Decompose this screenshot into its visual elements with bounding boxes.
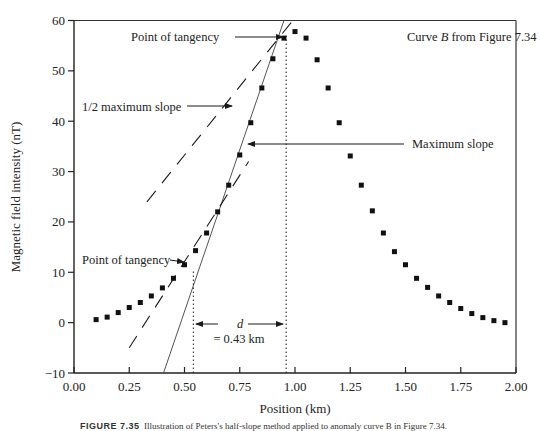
x-tick-label: 1.00 [284,379,307,394]
x-tick-label: 2.00 [505,379,528,394]
x-tick-label: 1.50 [394,379,417,394]
x-tick-label: 1.25 [339,379,362,394]
data-point [315,57,320,62]
data-point [458,306,463,311]
chart: 0.000.250.500.751.001.251.501.752.00 −10… [0,0,540,431]
data-point [160,285,165,290]
data-point [447,300,452,305]
data-point [105,315,110,320]
data-point [425,285,430,290]
figure-number: FIGURE 7.35 [80,421,140,431]
data-point [138,300,143,305]
data-point [359,183,364,188]
y-tick-label: 60 [52,13,65,28]
plot-frame [74,21,516,374]
data-point [381,231,386,236]
data-point [94,317,99,322]
tangency-bottom-label: Point of tangency [82,253,171,267]
data-point [502,320,507,325]
data-point [127,305,132,310]
data-point [392,249,397,254]
y-axis-label: Magnetic field intensity (nT) [8,122,23,273]
annotations: Curve B from Figure 7.34 Point of tangen… [82,30,537,346]
y-tick-label: 20 [52,214,65,229]
x-tick-label: 0.50 [173,379,196,394]
data-point [270,56,275,61]
data-point [226,183,231,188]
data-point [337,120,342,125]
x-tick-label: 0.75 [228,379,251,394]
d-value: = 0.43 km [213,332,264,346]
y-tick-label: 30 [52,164,65,179]
slope-lines [129,21,293,374]
half-slope-label: 1/2 maximum slope [82,100,182,114]
data-point [293,29,298,34]
data-point [215,209,220,214]
data-point [403,262,408,267]
data-point [414,276,419,281]
tangency-bottom-arrow [170,260,184,262]
data-point [237,152,242,157]
d-symbol: d [237,317,244,331]
y-tick-label: 50 [52,63,65,78]
x-tick-label: 0.00 [63,379,86,394]
data-point [281,36,286,41]
data-point [491,318,496,323]
data-point [149,293,154,298]
data-point [304,36,309,41]
data-point [259,85,264,90]
caption-text: Illustration of Peters's half-slope meth… [144,421,447,431]
x-axis-ticks: 0.000.250.500.751.001.251.501.752.00 [63,367,528,394]
data-point [370,208,375,213]
data-point [469,311,474,316]
x-tick-label: 1.75 [449,379,472,394]
y-tick-label: 40 [52,114,65,129]
data-point [348,153,353,158]
data-point [204,231,209,236]
y-tick-label: 10 [52,265,65,280]
max-slope-label: Maximum slope [412,137,494,151]
y-tick-label: 0 [59,315,66,330]
data-points [94,29,508,325]
x-axis-label: Position (km) [259,401,330,416]
data-point [182,262,187,267]
max-slope-line [164,21,284,374]
data-point [171,276,176,281]
data-point [480,315,485,320]
x-tick-label: 0.25 [118,379,141,394]
curve-title: Curve B from Figure 7.34 [407,30,537,44]
data-point [193,248,198,253]
data-point [326,85,331,90]
tangency-top-label: Point of tangency [131,30,220,44]
y-axis-ticks: −100102030405060 [45,13,74,381]
y-tick-label: −10 [45,366,65,381]
data-point [116,310,121,315]
data-point [436,293,441,298]
figure-caption: FIGURE 7.35 Illustration of Peters's hal… [80,421,447,431]
data-point [248,120,253,125]
